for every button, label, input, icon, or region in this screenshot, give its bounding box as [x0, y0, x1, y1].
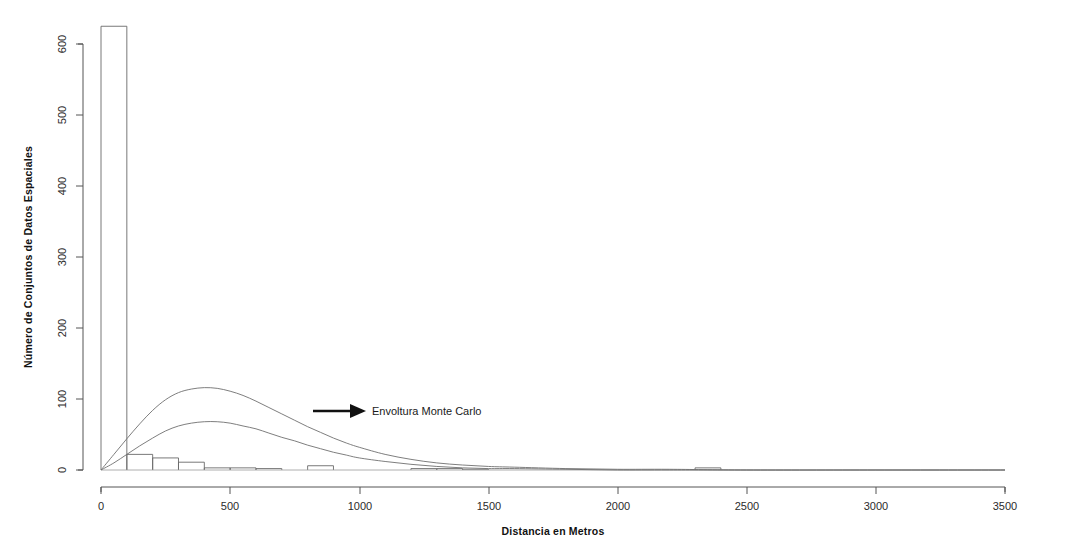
y-axis-tick-labels: 0 100 200 300 400 500 600 — [56, 35, 68, 473]
y-tick-label-200: 200 — [56, 319, 68, 337]
annotation-group: Envoltura Monte Carlo — [313, 404, 481, 418]
histogram-bar — [153, 458, 179, 470]
x-tick-label-2500: 2500 — [735, 500, 759, 512]
histogram-bar — [308, 466, 334, 470]
y-tick-label-500: 500 — [56, 106, 68, 124]
x-tick-label-0: 0 — [98, 500, 104, 512]
histogram-bar — [101, 26, 127, 470]
x-axis-ticks — [101, 487, 1005, 494]
y-axis-ticks — [76, 44, 83, 470]
histogram-bar — [178, 462, 204, 470]
x-tick-label-500: 500 — [221, 500, 239, 512]
y-tick-label-300: 300 — [56, 248, 68, 266]
envelope-upper-curve — [101, 388, 1005, 470]
monte-carlo-envelope — [101, 388, 1005, 470]
x-tick-label-1500: 1500 — [477, 500, 501, 512]
x-axis-line — [101, 487, 1005, 492]
histogram-bar — [127, 454, 153, 470]
x-axis: 0 500 1000 1500 2000 2500 3000 3500 Dist… — [98, 487, 1017, 537]
x-tick-label-3000: 3000 — [864, 500, 888, 512]
envelope-lower-curve — [101, 422, 1005, 471]
y-tick-label-0: 0 — [56, 467, 68, 473]
arrow-right-icon — [350, 404, 366, 418]
y-tick-label-600: 600 — [56, 35, 68, 53]
x-axis-tick-labels: 0 500 1000 1500 2000 2500 3000 3500 — [98, 500, 1017, 512]
chart-figure: 0 100 200 300 400 500 600 Número de Conj… — [0, 0, 1071, 549]
y-tick-label-100: 100 — [56, 390, 68, 408]
annotation-label: Envoltura Monte Carlo — [372, 405, 481, 417]
y-tick-label-400: 400 — [56, 177, 68, 195]
y-axis-title: Número de Conjuntos de Datos Espaciales — [22, 146, 34, 368]
x-tick-label-1000: 1000 — [348, 500, 372, 512]
x-tick-label-2000: 2000 — [606, 500, 630, 512]
histogram-plot: 0 100 200 300 400 500 600 Número de Conj… — [0, 0, 1071, 549]
histogram-bars — [101, 26, 1005, 470]
y-axis: 0 100 200 300 400 500 600 Número de Conj… — [22, 35, 83, 473]
x-tick-label-3500: 3500 — [993, 500, 1017, 512]
x-axis-title: Distancia en Metros — [502, 525, 605, 537]
